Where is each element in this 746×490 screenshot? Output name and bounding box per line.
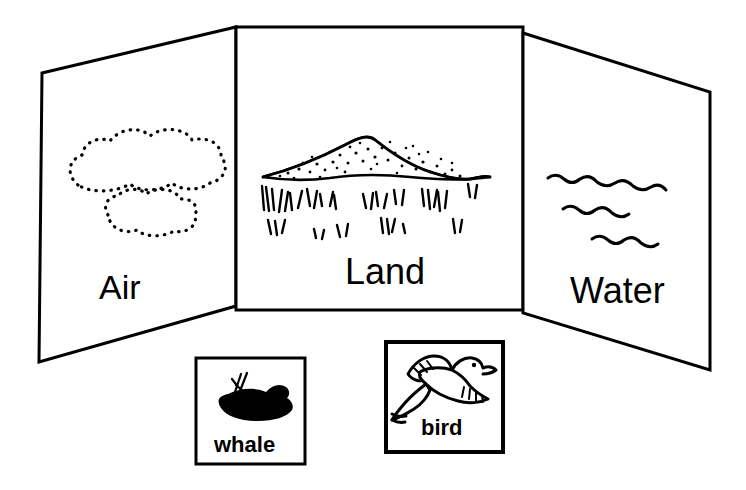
- card-label-bird: bird: [421, 415, 463, 440]
- panel-label-land: Land: [345, 251, 425, 292]
- bird-eye: [472, 363, 476, 367]
- panel-label-water: Water: [570, 270, 665, 311]
- water-panel-surface[interactable]: [523, 33, 710, 370]
- illustration-canvas: Air: [0, 0, 746, 490]
- card-bird[interactable]: bird: [386, 342, 503, 452]
- card-label-whale: whale: [213, 432, 275, 457]
- board-panel-air[interactable]: Air: [39, 27, 236, 362]
- habitat-sorting-illustration: Air: [0, 0, 746, 490]
- air-panel-surface[interactable]: [39, 27, 236, 362]
- panel-label-air: Air: [99, 268, 141, 306]
- card-whale[interactable]: whale: [196, 358, 305, 464]
- board-panel-water[interactable]: Water: [523, 33, 710, 370]
- board-panel-land[interactable]: Land: [236, 27, 523, 310]
